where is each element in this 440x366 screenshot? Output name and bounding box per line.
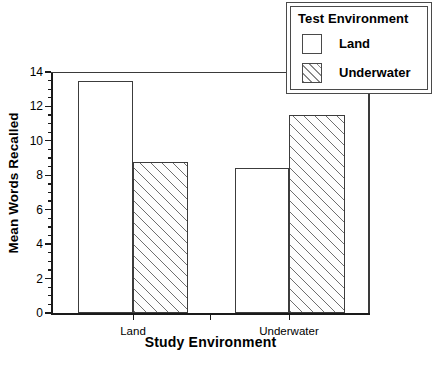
- legend-title: Test Environment: [298, 11, 408, 26]
- legend-label-land: Land: [339, 36, 370, 51]
- y-tick-minor: [48, 304, 52, 305]
- legend-inner-frame: Test Environment Land Underwater: [290, 6, 428, 90]
- x-axis-title: Study Environment: [51, 334, 370, 350]
- y-tick-minor: [48, 252, 52, 253]
- legend-item-land: Land: [291, 32, 427, 58]
- legend-item-underwater: Underwater: [291, 61, 427, 87]
- y-tick-minor: [48, 149, 52, 150]
- y-tick-minor: [48, 97, 52, 98]
- legend: Test Environment Land Underwater: [286, 2, 432, 94]
- y-tick-minor: [48, 235, 52, 236]
- y-tick-minor: [48, 132, 52, 133]
- y-tick-label-0: 0: [36, 306, 43, 320]
- y-tick-major-12: [45, 106, 51, 107]
- y-tick-minor: [48, 218, 52, 219]
- bar-land-underwater: [133, 162, 188, 313]
- bar-chart-figure: Mean Words Recalled 0 2 4 6 8 10 12 14: [0, 0, 440, 366]
- y-tick-minor: [48, 295, 52, 296]
- y-tick-minor: [48, 287, 52, 288]
- y-tick-label-12: 12: [30, 99, 43, 113]
- y-tick-label-10: 10: [30, 134, 43, 148]
- legend-swatch-hatched-square-icon: [302, 63, 322, 83]
- x-tick-group-underwater: [289, 313, 290, 320]
- x-tick-group-land: [133, 313, 134, 320]
- y-tick-label-14: 14: [30, 65, 43, 79]
- bar-underwater-underwater: [289, 115, 345, 313]
- y-tick-minor: [48, 166, 52, 167]
- x-tick-separator: [210, 313, 211, 320]
- right-spine-line: [368, 94, 370, 313]
- y-tick-minor: [48, 269, 52, 270]
- y-tick-minor: [48, 226, 52, 227]
- y-tick-label-2: 2: [36, 272, 43, 286]
- y-tick-minor: [48, 261, 52, 262]
- y-tick-minor: [48, 183, 52, 184]
- y-tick-minor: [48, 80, 52, 81]
- y-axis-title-label: Mean Words Recalled: [6, 112, 21, 253]
- bar-land-land: [78, 81, 133, 313]
- legend-swatch-open-square-icon: [302, 34, 322, 54]
- legend-label-underwater: Underwater: [339, 65, 411, 80]
- y-tick-minor: [48, 200, 52, 201]
- plot-area: 0 2 4 6 8 10 12 14: [51, 72, 370, 313]
- y-tick-major-10: [45, 140, 51, 141]
- y-tick-minor: [48, 123, 52, 124]
- y-tick-label-8: 8: [36, 168, 43, 182]
- top-spine-line: [51, 72, 288, 73]
- y-axis-line: [51, 72, 53, 313]
- y-axis-title: Mean Words Recalled: [0, 0, 26, 366]
- y-tick-minor: [48, 157, 52, 158]
- y-tick-major-6: [45, 209, 51, 210]
- y-tick-major-14: [45, 71, 51, 72]
- bar-underwater-land: [235, 168, 289, 313]
- y-tick-major-4: [45, 243, 51, 244]
- y-tick-label-6: 6: [36, 203, 43, 217]
- y-tick-minor: [48, 89, 52, 90]
- y-tick-label-4: 4: [36, 237, 43, 251]
- y-tick-major-8: [45, 175, 51, 176]
- y-tick-minor: [48, 192, 52, 193]
- y-tick-minor: [48, 114, 52, 115]
- y-tick-major-0: [45, 312, 51, 313]
- y-tick-major-2: [45, 278, 51, 279]
